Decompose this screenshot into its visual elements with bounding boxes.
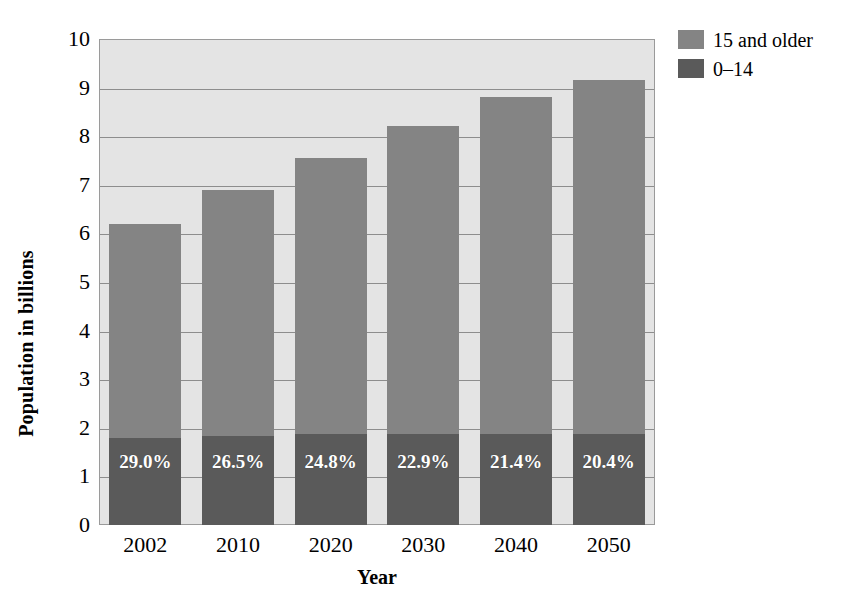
y-tick-label: 0 — [44, 514, 90, 536]
x-axis-tick-labels: 200220102020203020402050 — [99, 532, 655, 564]
y-tick-label: 7 — [44, 174, 90, 196]
y-tick-label: 9 — [44, 77, 90, 99]
population-stacked-bar-chart: Population in billions 012345678910 29.0… — [0, 0, 841, 612]
y-tick-label: 8 — [44, 125, 90, 147]
x-tick-label: 2030 — [377, 532, 470, 558]
bar-percentage-label: 22.9% — [387, 452, 459, 471]
x-tick-label: 2040 — [470, 532, 563, 558]
y-tick-label: 1 — [44, 465, 90, 487]
legend-item-label: 15 and older — [713, 30, 813, 50]
chart-legend: 15 and older0–14 — [678, 27, 838, 85]
y-tick-label: 6 — [44, 222, 90, 244]
x-tick-label: 2002 — [99, 532, 192, 558]
bar-segment-0-14[interactable] — [295, 434, 367, 525]
bars-layer: 29.0%26.5%24.8%22.9%21.4%20.4% — [99, 39, 655, 525]
bar-segment-0-14[interactable] — [202, 436, 274, 525]
bar-group[interactable]: 22.9% — [387, 126, 459, 525]
bar-group[interactable]: 20.4% — [573, 80, 645, 525]
bar-percentage-label: 21.4% — [480, 452, 552, 471]
bar-segment-0-14[interactable] — [573, 434, 645, 525]
bar-segment-15-and-older[interactable] — [202, 190, 274, 436]
bar-percentage-label: 24.8% — [295, 452, 367, 471]
legend-item[interactable]: 15 and older — [678, 27, 838, 52]
bar-percentage-label: 29.0% — [109, 452, 181, 471]
bar-segment-15-and-older[interactable] — [387, 126, 459, 433]
bar-percentage-label: 20.4% — [573, 452, 645, 471]
y-tick-label: 2 — [44, 417, 90, 439]
y-tick-label: 3 — [44, 368, 90, 390]
bar-group[interactable]: 21.4% — [480, 97, 552, 525]
bar-segment-15-and-older[interactable] — [109, 224, 181, 438]
bar-group[interactable]: 24.8% — [295, 158, 367, 525]
bar-segment-15-and-older[interactable] — [573, 80, 645, 434]
y-axis-tick-labels: 012345678910 — [36, 0, 90, 612]
x-tick-label: 2010 — [192, 532, 285, 558]
legend-swatch-icon — [678, 30, 704, 49]
legend-item-label: 0–14 — [713, 59, 753, 79]
x-axis-title: Year — [99, 566, 655, 589]
x-tick-label: 2020 — [284, 532, 377, 558]
legend-swatch-icon — [678, 59, 704, 78]
bar-percentage-label: 26.5% — [202, 452, 274, 471]
bar-segment-0-14[interactable] — [387, 434, 459, 525]
y-tick-label: 4 — [44, 320, 90, 342]
y-axis-title: Population in billions — [15, 184, 38, 504]
bar-group[interactable]: 29.0% — [109, 224, 181, 525]
bar-group[interactable]: 26.5% — [202, 190, 274, 525]
bar-segment-15-and-older[interactable] — [480, 97, 552, 433]
bar-segment-0-14[interactable] — [480, 434, 552, 525]
y-tick-label: 5 — [44, 271, 90, 293]
y-tick-label: 10 — [44, 28, 90, 50]
x-tick-label: 2050 — [562, 532, 655, 558]
bar-segment-15-and-older[interactable] — [295, 158, 367, 434]
legend-item[interactable]: 0–14 — [678, 56, 838, 81]
